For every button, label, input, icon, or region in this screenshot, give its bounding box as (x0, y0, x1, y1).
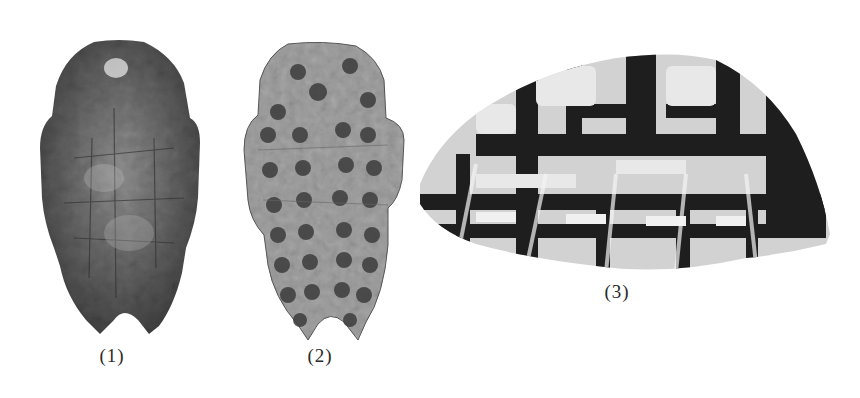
figure-label-3: (3) (604, 281, 629, 303)
shell-2-image (238, 40, 408, 350)
shell-1-image (34, 38, 204, 348)
figure-label-1: (1) (99, 345, 124, 367)
shell-3-image (416, 44, 834, 276)
figure-label-2: (2) (307, 345, 332, 367)
